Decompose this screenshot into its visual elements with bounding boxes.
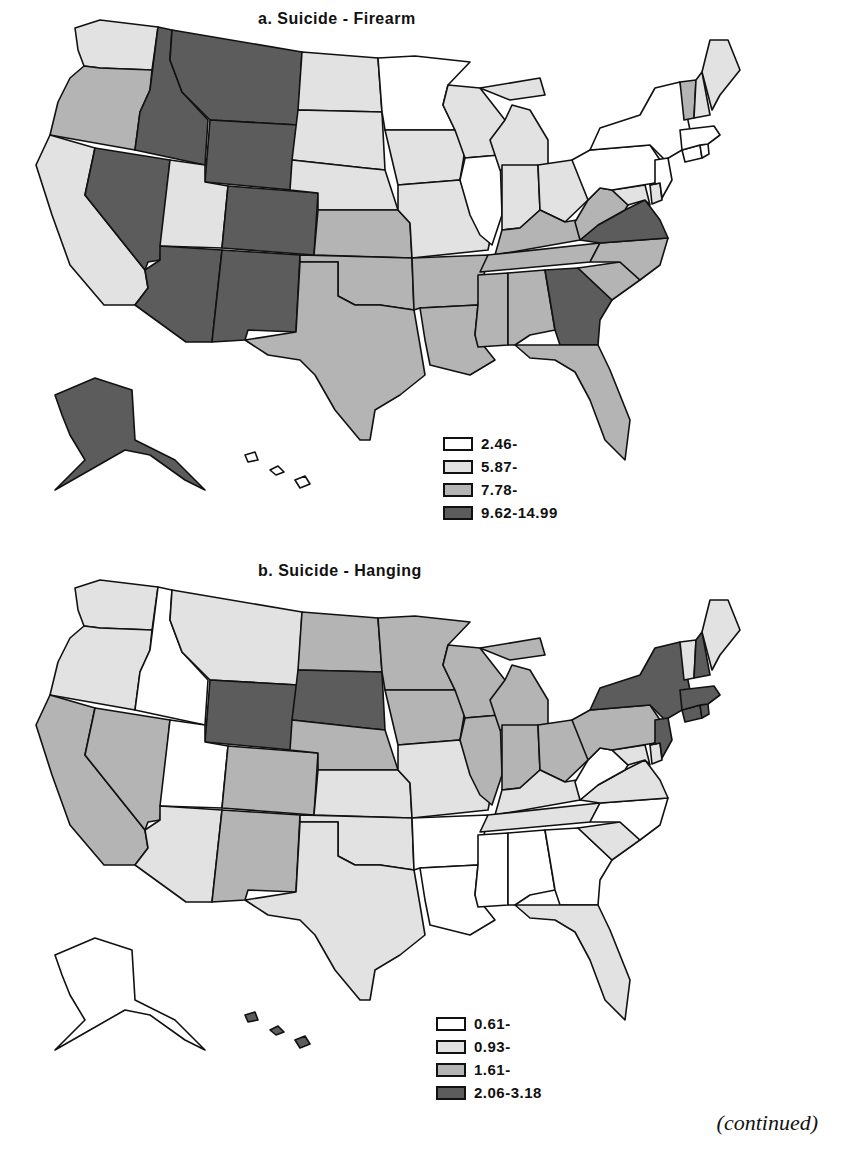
state-nm xyxy=(212,810,300,902)
state-nd xyxy=(298,612,382,672)
state-ia xyxy=(385,690,465,745)
state-nd xyxy=(298,52,382,112)
map-b-legend: 0.61-0.93-1.61-2.06-3.18 xyxy=(436,1013,542,1105)
legend-swatch xyxy=(443,460,473,474)
state-ri xyxy=(700,144,709,158)
map-b-hanging xyxy=(0,560,842,1120)
state-ms xyxy=(475,833,508,907)
state-co xyxy=(222,746,318,815)
state-ks xyxy=(314,770,412,818)
legend-swatch xyxy=(443,437,473,451)
legend-swatch xyxy=(436,1063,466,1077)
legend-label: 9.62-14.99 xyxy=(481,504,558,521)
state-wy xyxy=(205,120,298,190)
map-a-firearm xyxy=(0,0,842,560)
legend-swatch xyxy=(436,1086,466,1100)
legend-swatch xyxy=(436,1017,466,1031)
legend-label: 7.78- xyxy=(481,481,518,498)
legend-item: 0.93- xyxy=(436,1036,542,1057)
legend-item: 2.46- xyxy=(443,433,558,454)
state-ms xyxy=(475,273,508,347)
legend-label: 0.93- xyxy=(474,1038,511,1055)
state-ia xyxy=(385,130,465,185)
state-ak xyxy=(55,938,205,1050)
state-co xyxy=(222,186,318,255)
state-ri xyxy=(700,704,709,718)
legend-swatch xyxy=(436,1040,466,1054)
legend-item: 7.78- xyxy=(443,479,558,500)
state-hi xyxy=(245,1012,310,1048)
legend-label: 2.06-3.18 xyxy=(474,1084,542,1101)
state-wa xyxy=(75,580,158,630)
legend-item: 5.87- xyxy=(443,456,558,477)
legend-item: 0.61- xyxy=(436,1013,542,1034)
state-nm xyxy=(212,250,300,342)
state-hi xyxy=(245,452,310,488)
legend-label: 2.46- xyxy=(481,435,518,452)
state-ar xyxy=(412,255,488,310)
state-wa xyxy=(75,20,158,70)
legend-swatch xyxy=(443,483,473,497)
legend-label: 5.87- xyxy=(481,458,518,475)
legend-item: 2.06-3.18 xyxy=(436,1082,542,1103)
state-ak xyxy=(55,378,205,490)
state-ks xyxy=(314,210,412,258)
state-wy xyxy=(205,680,298,750)
state-ar xyxy=(412,815,488,870)
legend-label: 1.61- xyxy=(474,1061,511,1078)
state-fl xyxy=(515,905,630,1020)
legend-item: 1.61- xyxy=(436,1059,542,1080)
legend-swatch xyxy=(443,506,473,520)
legend-label: 0.61- xyxy=(474,1015,511,1032)
legend-item: 9.62-14.99 xyxy=(443,502,558,523)
map-a-legend: 2.46-5.87-7.78-9.62-14.99 xyxy=(443,433,558,525)
continued-note: (continued) xyxy=(717,1110,818,1136)
